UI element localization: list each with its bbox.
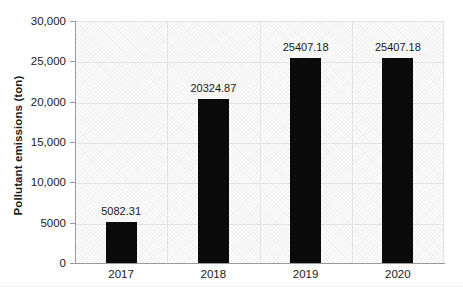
gridline-vertical: [352, 22, 353, 263]
bar-chart-figure: Pollutant emissions (ton) 30,00025,00020…: [0, 0, 463, 291]
y-axis-tick-label: 5000: [0, 217, 66, 229]
y-axis-tick-label: 30,000: [0, 15, 66, 27]
bar-2018: [198, 99, 229, 263]
y-axis-tick-label: 15,000: [0, 136, 66, 148]
bar-value-label-2019: 25407.18: [283, 41, 329, 53]
y-axis-tick-mark: [70, 61, 75, 62]
gridline-vertical: [167, 22, 168, 263]
x-axis-line: [75, 263, 445, 264]
bar-value-label-2017: 5082.31: [101, 205, 141, 217]
plot-area: [75, 21, 444, 263]
bar-2017: [106, 222, 137, 263]
y-axis-tick-mark: [70, 182, 75, 183]
y-axis-tick-mark: [70, 263, 75, 264]
x-axis-tick-label-2017: 2017: [108, 268, 134, 280]
y-axis-tick-label: 0: [0, 257, 66, 269]
bar-2019: [290, 58, 321, 263]
x-axis-tick-label-2018: 2018: [201, 268, 227, 280]
y-axis-tick-mark: [70, 223, 75, 224]
y-axis-tick-mark: [70, 142, 75, 143]
y-axis-tick-label: 25,000: [0, 55, 66, 67]
figure-bottom-rule: [0, 286, 463, 287]
y-axis-line: [75, 21, 76, 264]
y-axis-tick-mark: [70, 21, 75, 22]
bar-value-label-2018: 20324.87: [190, 82, 236, 94]
x-axis-tick-label-2020: 2020: [385, 268, 411, 280]
x-axis-tick-label-2019: 2019: [293, 268, 319, 280]
y-axis-tick-label: 20,000: [0, 96, 66, 108]
gridline-vertical: [260, 22, 261, 263]
bar-value-label-2020: 25407.18: [375, 41, 421, 53]
y-axis-tick-mark: [70, 102, 75, 103]
bar-2020: [382, 58, 413, 263]
y-axis-tick-label: 10,000: [0, 176, 66, 188]
